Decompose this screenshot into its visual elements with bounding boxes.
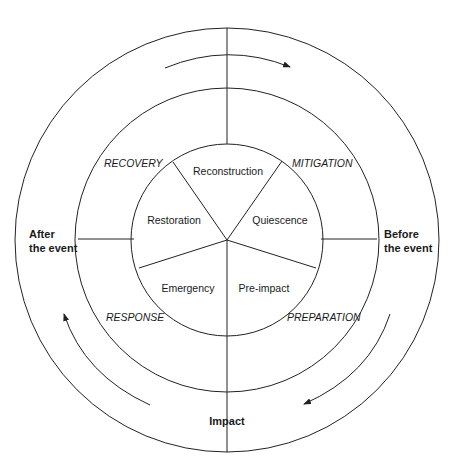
stage-emergency: Emergency — [161, 282, 215, 294]
phase-response: RESPONSE — [106, 311, 165, 323]
disaster-cycle-diagram: After the event Before the event Impact … — [0, 0, 453, 470]
right-arrow-icon — [304, 314, 390, 404]
stage-pre-impact: Pre-impact — [239, 282, 290, 294]
spoke-lower-right — [227, 240, 316, 268]
stage-reconstruction: Reconstruction — [193, 165, 263, 177]
stage-restoration: Restoration — [147, 214, 201, 226]
spoke-lower-left — [139, 240, 227, 268]
after-event-label-line2: the event — [29, 242, 78, 254]
impact-label: Impact — [209, 415, 245, 427]
phase-recovery: RECOVERY — [104, 157, 164, 169]
phase-preparation: PREPARATION — [287, 311, 361, 323]
phase-mitigation: MITIGATION — [292, 157, 353, 169]
after-event-label-line1: After — [29, 228, 55, 240]
left-arrow-icon — [64, 314, 150, 405]
before-event-label-line1: Before — [384, 228, 419, 240]
stage-quiescence: Quiescence — [252, 214, 308, 226]
before-event-label-line2: the event — [384, 242, 433, 254]
